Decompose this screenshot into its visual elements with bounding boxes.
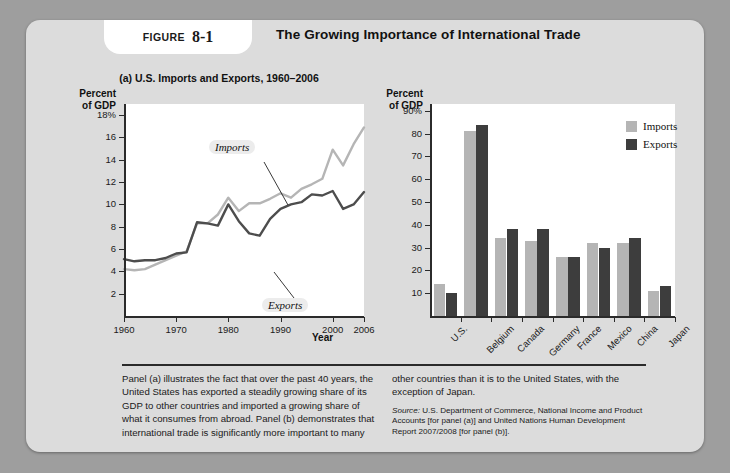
caption-right-text: other countries than it is to the United…	[392, 372, 646, 399]
bar-china-imports	[617, 243, 629, 316]
panel-b-x-tick	[644, 317, 645, 322]
imports-annotation: Imports	[209, 140, 255, 154]
panel-b-y-tick	[425, 202, 430, 203]
bar-canada-imports	[495, 238, 507, 316]
panel-a-x-tick-label: 1970	[161, 324, 191, 335]
panel-a-y-axis	[124, 104, 126, 316]
legend-label-imports: Imports	[643, 120, 677, 132]
country-label-japan: Japan	[665, 323, 691, 349]
panel-a-x-tick-label: 2000	[318, 324, 348, 335]
panel-b-y-tick	[425, 134, 430, 135]
bar-canada-exports	[507, 229, 519, 316]
panel-b-x-tick	[583, 317, 584, 322]
panel-a-y-tick-label: 16	[72, 131, 116, 142]
caption-left-column: Panel (a) illustrates the fact that over…	[122, 372, 378, 439]
panel-b-y-tick-label: 20	[378, 264, 422, 275]
panel-a-y-tick-label: 10	[72, 198, 116, 209]
figure-number-tab: FIGURE 8-1	[104, 20, 252, 54]
figure-page: FIGURE 8-1 The Growing Importance of Int…	[0, 0, 730, 473]
source-text: U.S. Department of Commerce, National In…	[392, 406, 642, 436]
panel-b-y-tick-label: 10	[378, 287, 422, 298]
country-label-canada: Canada	[514, 323, 545, 354]
imports-leader-line	[264, 162, 288, 205]
legend-label-exports: Exports	[643, 138, 677, 150]
country-label-us: U.S.	[449, 323, 470, 344]
panel-b-y-tick	[425, 156, 430, 157]
panel-b-y-tick	[425, 270, 430, 271]
panel-a-y-tick	[119, 249, 124, 250]
panel-a-x-tick	[228, 317, 229, 322]
panel-a-y-tick	[119, 294, 124, 295]
panel-a-y-tick-label: 2	[72, 288, 116, 299]
panel-a-x-axis	[124, 316, 364, 318]
panel-b-y-tick	[425, 225, 430, 226]
panel-b-y-tick-label: 90%	[378, 105, 422, 116]
figure-card: FIGURE 8-1 The Growing Importance of Int…	[26, 20, 704, 452]
panel-b-x-tick	[461, 317, 462, 322]
panel-a-x-tick	[364, 317, 365, 322]
panel-b-y-tick-label: 50	[378, 196, 422, 207]
panel-a-y-tick-label: 6	[72, 243, 116, 254]
panel-b-legend: ImportsExports	[626, 120, 677, 156]
panel-a-y-tick	[119, 137, 124, 138]
panel-a-series-exports	[124, 191, 364, 261]
exports-annotation: Exports	[262, 298, 308, 312]
panel-a-x-tick-label: 1980	[213, 324, 243, 335]
panel-a: (a) U.S. Imports and Exports, 1960–2006 …	[26, 60, 376, 340]
figure-title: The Growing Importance of International …	[276, 27, 581, 42]
bar-japan-imports	[648, 291, 660, 316]
panel-b-y-tick	[425, 293, 430, 294]
panel-a-x-tick	[333, 317, 334, 322]
caption-divider	[122, 364, 646, 366]
panel-a-y-tick	[119, 204, 124, 205]
source-label: Source:	[392, 406, 420, 415]
bar-germany-exports	[537, 229, 549, 316]
figure-label-word: FIGURE	[143, 31, 185, 43]
panel-a-y-tick-label: 4	[72, 265, 116, 276]
panel-b-x-tick	[553, 317, 554, 322]
figure-header: FIGURE 8-1 The Growing Importance of Int…	[26, 20, 704, 60]
panel-a-y-tick	[119, 271, 124, 272]
panel-b-y-tick	[425, 111, 430, 112]
country-label-china: China	[634, 323, 659, 348]
panel-b-x-tick	[675, 317, 676, 322]
panel-b: (b) Imports and Exports for Different Co…	[376, 60, 704, 340]
legend-item-exports: Exports	[626, 138, 677, 150]
bar-japan-exports	[660, 286, 672, 316]
panel-b-x-tick	[491, 317, 492, 322]
panel-a-x-tick-label: 2006	[349, 324, 379, 335]
bar-china-exports	[629, 238, 641, 316]
panel-a-x-tick-label: 1990	[266, 324, 296, 335]
legend-item-imports: Imports	[626, 120, 677, 132]
bar-us-imports	[434, 284, 446, 316]
panel-a-y-tick-label: 14	[72, 154, 116, 165]
panel-a-y-tick	[119, 182, 124, 183]
panel-a-y-tick-label: 18%	[72, 109, 116, 120]
caption-right-column: other countries than it is to the United…	[392, 372, 646, 438]
bar-mexico-exports	[599, 248, 611, 316]
panel-b-y-tick-label: 60	[378, 173, 422, 184]
bar-france-imports	[556, 257, 568, 316]
panel-b-y-tick	[425, 179, 430, 180]
panel-a-x-tick	[176, 317, 177, 322]
panel-b-x-tick	[614, 317, 615, 322]
panels-container: (a) U.S. Imports and Exports, 1960–2006 …	[26, 60, 704, 340]
bar-germany-imports	[525, 241, 537, 316]
bar-mexico-imports	[587, 243, 599, 316]
panel-a-y-tick-label: 12	[72, 176, 116, 187]
bar-us-exports	[446, 293, 458, 316]
figure-number: 8-1	[192, 28, 213, 46]
legend-swatch-exports	[626, 139, 637, 150]
panel-a-x-tick-label: 1960	[109, 324, 139, 335]
country-label-belgium: Belgium	[484, 323, 516, 355]
panel-b-y-tick-label: 30	[378, 242, 422, 253]
source-note: Source: U.S. Department of Commerce, Nat…	[392, 406, 646, 438]
panel-b-y-tick-label: 40	[378, 219, 422, 230]
panel-a-x-tick	[124, 317, 125, 322]
panel-a-y-tick	[119, 115, 124, 116]
bar-france-exports	[568, 257, 580, 316]
country-label-mexico: Mexico	[605, 323, 634, 352]
bar-belgium-imports	[464, 131, 476, 316]
bar-belgium-exports	[476, 125, 488, 316]
legend-swatch-imports	[626, 121, 637, 132]
